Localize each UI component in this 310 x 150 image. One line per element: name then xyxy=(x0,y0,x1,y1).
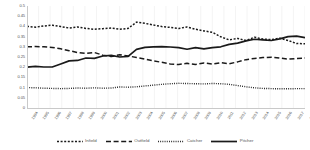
x-axis-tick-label: 2006 xyxy=(169,111,177,120)
x-axis-tick-label: 2003 xyxy=(135,111,143,120)
x-axis-tick-label: 1995 xyxy=(42,111,50,120)
x-axis-tick-label: 2000 xyxy=(100,111,108,120)
x-axis-tick-label: 2015 xyxy=(274,111,282,120)
legend-label: Infield xyxy=(85,139,97,143)
legend-swatch-infield xyxy=(57,139,83,144)
y-axis-line xyxy=(27,6,28,108)
legend-label: Pitcher xyxy=(240,139,254,143)
x-axis-tick-label: 2012 xyxy=(239,111,247,120)
y-axis-tick-label: 0.15 xyxy=(17,75,25,79)
x-axis-tick-label: 2005 xyxy=(158,111,166,120)
y-axis-tick-label: 0.2 xyxy=(20,65,25,69)
x-axis-tick-label: 1997 xyxy=(65,111,73,120)
y-axis-tick-label: 0.4 xyxy=(20,24,25,28)
x-axis-tick-label: 1996 xyxy=(54,111,62,120)
x-axis-tick-label: 2007 xyxy=(181,111,189,120)
x-axis-tick-label: 1998 xyxy=(77,111,85,120)
line-chart: 00.050.10.150.20.250.30.350.40.450.5 199… xyxy=(0,0,310,150)
y-axis-tick-label: 0.3 xyxy=(20,45,25,49)
x-axis-tick-label: 1994 xyxy=(30,111,38,120)
legend-label: Catcher xyxy=(187,139,202,143)
y-axis-tick-label: 0.1 xyxy=(20,86,25,90)
legend-item-outfield[interactable]: Outfield xyxy=(106,139,150,144)
y-axis-tick-label: 0.25 xyxy=(17,55,25,59)
legend-swatch-catcher xyxy=(158,139,184,144)
x-axis-tick-label: 2009 xyxy=(204,111,212,120)
x-axis-tick-label: 2011 xyxy=(227,111,235,120)
x-axis-tick-label: 2004 xyxy=(146,111,154,120)
legend-label: Outfield xyxy=(134,139,149,143)
y-axis-tick-label: 0.45 xyxy=(17,14,25,18)
x-axis-line xyxy=(27,108,305,109)
x-axis-tick-label: 2008 xyxy=(193,111,201,120)
legend-item-pitcher[interactable]: Pitcher xyxy=(211,139,253,144)
x-axis-tick-label: 2016 xyxy=(285,111,293,120)
x-axis-tick-label: 2018 xyxy=(308,111,310,120)
x-axis-tick-label: 2001 xyxy=(112,111,120,120)
y-axis-tick-label: 0.05 xyxy=(17,96,25,100)
x-axis-tick-label: 2014 xyxy=(262,111,270,120)
legend-swatch-outfield xyxy=(106,139,132,144)
legend-item-infield[interactable]: Infield xyxy=(57,139,97,144)
legend-swatch-pitcher xyxy=(211,139,237,144)
legend-item-catcher[interactable]: Catcher xyxy=(158,139,202,144)
y-axis-tick-label: 0.35 xyxy=(17,35,25,39)
y-axis-tick-label: 0.5 xyxy=(20,4,25,8)
x-axis-tick-label: 2002 xyxy=(123,111,131,120)
y-axis-tick-labels: 00.050.10.150.20.250.30.350.40.450.5 xyxy=(0,0,25,114)
x-axis-tick-label: 2017 xyxy=(297,111,305,120)
y-axis-tick-label: 0 xyxy=(23,106,25,110)
chart-legend: InfieldOutfieldCatcherPitcher xyxy=(0,134,310,148)
x-axis-tick-label: 1999 xyxy=(88,111,96,120)
plot-area xyxy=(27,6,305,108)
x-axis-tick-label: 2013 xyxy=(251,111,259,120)
x-axis-tick-label: 2010 xyxy=(216,111,224,120)
